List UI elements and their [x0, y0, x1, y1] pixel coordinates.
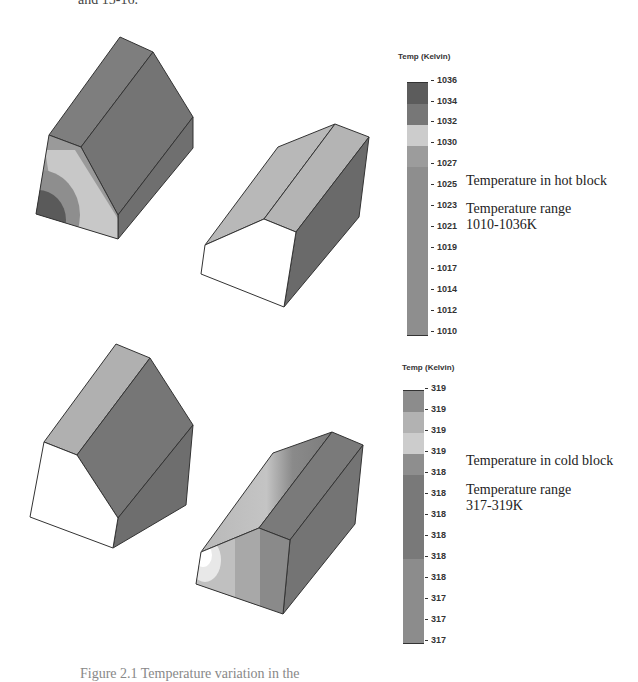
cold-seg-5	[403, 559, 424, 643]
hot-tick: 1025	[437, 179, 457, 189]
hot-seg-0	[407, 83, 428, 104]
hot-tick: 1019	[437, 242, 457, 252]
hot-tick: 1012	[437, 305, 457, 315]
cold-tick: 318	[431, 488, 446, 498]
cold-block-label: Temperature in cold block	[466, 453, 613, 469]
cold-tick: 319	[431, 383, 446, 393]
cold-range-value: 317-319K	[466, 498, 523, 514]
cold-tick: 318	[431, 572, 446, 582]
hot-seg-4	[407, 167, 428, 335]
cold-block-right	[189, 432, 363, 620]
cold-tick: 318	[431, 509, 446, 519]
hot-block-right	[201, 124, 369, 307]
hot-seg-1	[407, 104, 428, 125]
hot-colorbar-title: Temp (Kelvin)	[398, 52, 450, 61]
hot-tick: 1014	[437, 284, 457, 294]
cold-colorbar-title: Temp (Kelvin)	[402, 363, 454, 372]
hot-tick: 1021	[437, 221, 457, 231]
cold-seg-3	[403, 454, 424, 475]
cold-tick: 318	[431, 551, 446, 561]
hot-block-label: Temperature in hot block	[466, 173, 607, 189]
cold-colorbar	[403, 390, 424, 644]
hot-tick: 1023	[437, 200, 457, 210]
hot-range-title: Temperature range	[466, 201, 571, 217]
hot-tick: 1017	[437, 263, 457, 273]
cold-tick: 319	[431, 425, 446, 435]
cold-tick: 317	[431, 593, 446, 603]
cold-tick: 318	[431, 530, 446, 540]
hot-block-left	[0, 37, 193, 260]
cold-seg-0	[403, 391, 424, 412]
hot-colorbar	[407, 82, 428, 336]
cold-seg-2	[403, 433, 424, 454]
cold-tick: 319	[431, 404, 446, 414]
hot-range-value: 1010-1036K	[466, 217, 537, 233]
figure-caption-fragment: Figure 2.1 Temperature variation in the	[80, 666, 300, 682]
hot-seg-3	[407, 146, 428, 167]
hot-tick: 1034	[437, 96, 457, 106]
cold-block-left	[30, 344, 193, 548]
hot-seg-2	[407, 125, 428, 146]
hot-tick: 1032	[437, 116, 457, 126]
hot-tick: 1036	[437, 75, 457, 85]
cold-tick: 318	[431, 467, 446, 477]
cold-range-title: Temperature range	[466, 482, 571, 498]
cold-tick: 317	[431, 614, 446, 624]
cold-tick: 319	[431, 446, 446, 456]
hot-tick: 1010	[437, 326, 457, 336]
cold-seg-4	[403, 475, 424, 559]
hot-tick: 1027	[437, 158, 457, 168]
hot-tick: 1030	[437, 137, 457, 147]
cold-seg-1	[403, 412, 424, 433]
cold-tick: 317	[431, 635, 446, 645]
